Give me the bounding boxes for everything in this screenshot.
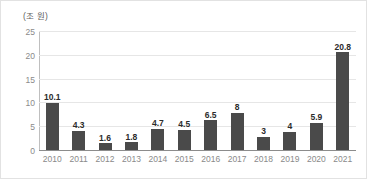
plot-area: 10.14.31.61.84.74.56.58345.920.8 bbox=[39, 32, 356, 151]
bar-item: 1.6 bbox=[92, 32, 118, 151]
y-axis-tick-label: 20 bbox=[5, 51, 35, 61]
x-axis-tick-labels: 2010201120122013201420152016201720182019… bbox=[39, 154, 356, 170]
x-axis-tick-label: 2010 bbox=[43, 154, 62, 164]
y-axis-tick-label: 10 bbox=[5, 98, 35, 108]
x-axis-line bbox=[39, 150, 356, 151]
y-axis-tick-labels: 0510152025 bbox=[1, 32, 35, 151]
bar-value-label: 4 bbox=[288, 122, 293, 131]
bar-rect bbox=[257, 137, 270, 151]
y-axis-tick-label: 15 bbox=[5, 75, 35, 85]
y-axis-tick-label: 0 bbox=[5, 146, 35, 156]
bar-item: 10.1 bbox=[39, 32, 65, 151]
bar-chart-figure: (조 원) 0510152025 10.14.31.61.84.74.56.58… bbox=[0, 0, 367, 179]
x-axis-tick-label: 2017 bbox=[228, 154, 247, 164]
bar-rect bbox=[46, 103, 59, 151]
x-axis-tick-label: 2011 bbox=[69, 154, 87, 164]
bar-item: 4.3 bbox=[65, 32, 91, 151]
bar-item: 5.9 bbox=[303, 32, 329, 151]
y-axis-unit-label: (조 원) bbox=[23, 9, 48, 21]
x-axis-tick-label: 2012 bbox=[96, 154, 115, 164]
bar-item: 1.8 bbox=[118, 32, 144, 151]
x-axis-tick-label: 2019 bbox=[280, 154, 299, 164]
bar-item: 4 bbox=[277, 32, 303, 151]
bar-value-label: 1.8 bbox=[126, 133, 138, 142]
bar-item: 3 bbox=[250, 32, 276, 151]
x-axis-tick-label: 2020 bbox=[307, 154, 326, 164]
x-axis-tick-label: 2015 bbox=[175, 154, 194, 164]
bar-rect bbox=[283, 132, 296, 151]
bar-value-label: 5.9 bbox=[310, 113, 322, 122]
bar-value-label: 4.7 bbox=[152, 119, 164, 128]
bar-rect bbox=[151, 129, 164, 151]
bar-value-label: 4.5 bbox=[178, 120, 190, 129]
bar-rect bbox=[231, 113, 244, 151]
bar-rect bbox=[178, 130, 191, 151]
bar-value-label: 8 bbox=[235, 103, 240, 112]
x-axis-tick-label: 2021 bbox=[333, 154, 352, 164]
bar-item: 4.7 bbox=[145, 32, 171, 151]
bar-value-label: 4.3 bbox=[73, 121, 85, 130]
x-axis-tick-label: 2016 bbox=[201, 154, 220, 164]
bar-item: 20.8 bbox=[330, 32, 356, 151]
bar-item: 4.5 bbox=[171, 32, 197, 151]
x-axis-tick-label: 2014 bbox=[148, 154, 167, 164]
bar-rect bbox=[204, 120, 217, 151]
bar-item: 8 bbox=[224, 32, 250, 151]
bar-item: 6.5 bbox=[198, 32, 224, 151]
y-axis-tick-label: 5 bbox=[5, 122, 35, 132]
x-axis-tick-label: 2018 bbox=[254, 154, 273, 164]
bar-value-label: 6.5 bbox=[205, 111, 217, 120]
bar-rect bbox=[72, 131, 85, 151]
bar-value-label: 10.1 bbox=[44, 93, 61, 102]
x-axis-tick-label: 2013 bbox=[122, 154, 141, 164]
bar-value-label: 3 bbox=[261, 127, 266, 136]
bar-rect bbox=[336, 52, 349, 151]
y-axis-tick-label: 25 bbox=[5, 27, 35, 37]
bar-value-label: 20.8 bbox=[335, 43, 352, 52]
bar-rect bbox=[310, 123, 323, 151]
bar-value-label: 1.6 bbox=[99, 134, 111, 143]
